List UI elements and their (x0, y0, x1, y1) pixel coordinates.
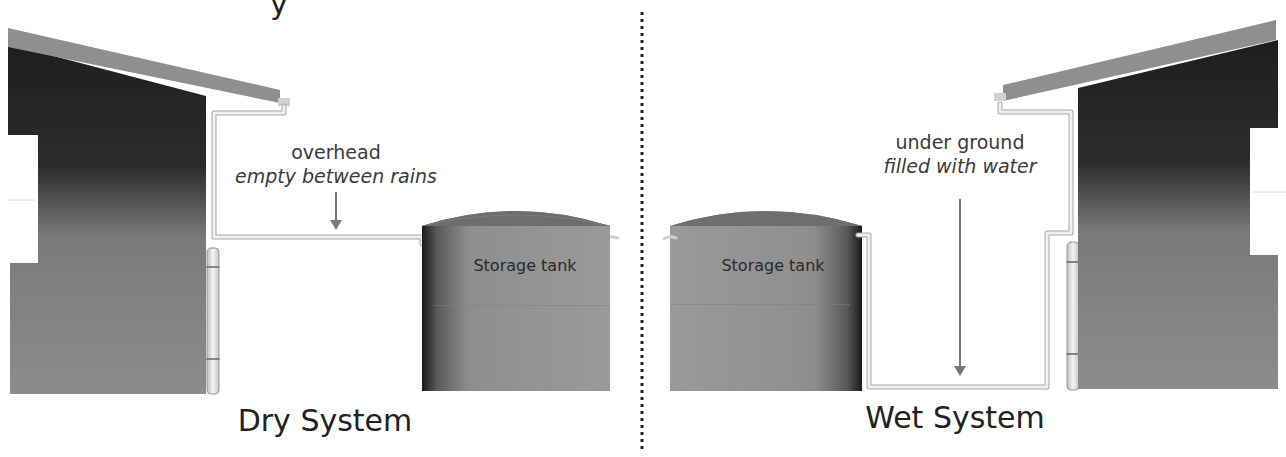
right-annotation-line1: under ground (896, 131, 1025, 153)
left-house (0, 28, 290, 394)
left-annotation-line1: overhead (291, 141, 380, 163)
left-system-title: Dry System (205, 403, 445, 438)
right-annotation: under ground filled with water (845, 130, 1075, 178)
rainwater-system-diagram: y overhead empty between rains Storage t… (0, 0, 1286, 457)
right-tank-label: Storage tank (688, 256, 858, 275)
partial-heading-left: y (270, 0, 288, 21)
right-annotation-arrow (954, 199, 966, 376)
right-annotation-line2: filled with water (845, 154, 1075, 178)
right-storage-tank (670, 211, 862, 391)
right-system-title: Wet System (840, 400, 1070, 435)
left-annotation-arrow (330, 192, 342, 230)
left-annotation-line2: empty between rains (218, 164, 454, 188)
right-house (994, 20, 1286, 389)
diagram-canvas (0, 0, 1286, 457)
left-tank-label: Storage tank (440, 256, 610, 275)
left-storage-tank (422, 211, 610, 391)
left-annotation: overhead empty between rains (218, 140, 454, 188)
